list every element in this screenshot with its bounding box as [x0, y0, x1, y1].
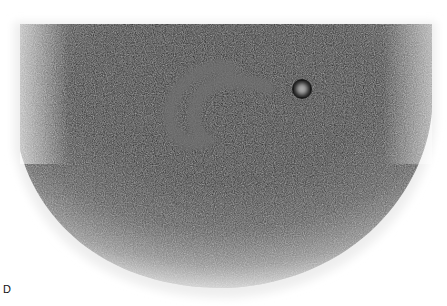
- scan-image: [0, 0, 447, 306]
- panel-label: D: [3, 284, 11, 295]
- bright-spot: [296, 83, 308, 95]
- scan-image-figure: D: [0, 0, 447, 306]
- edge-fade: [20, 24, 432, 164]
